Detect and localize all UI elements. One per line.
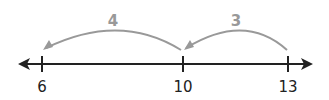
jump-label-3: 3 xyxy=(231,12,241,30)
tick-label-10: 10 xyxy=(173,78,192,96)
tick-label-6: 6 xyxy=(37,78,47,96)
jump-arc-4 xyxy=(46,30,181,50)
jump-arc-3 xyxy=(186,30,287,50)
jump-label-4: 4 xyxy=(108,12,118,30)
jump-arrowhead-4-icon xyxy=(43,40,53,50)
jump-arrowhead-3-icon xyxy=(184,40,194,50)
tick-label-13: 13 xyxy=(278,78,297,96)
